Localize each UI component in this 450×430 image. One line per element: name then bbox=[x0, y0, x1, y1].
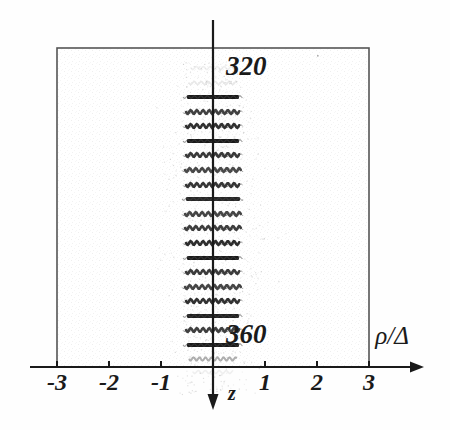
x-axis-tick-label: -2 bbox=[99, 369, 119, 395]
figure-svg: -3-2-1123ρ/Δz320360 bbox=[0, 0, 450, 430]
x-axis-tick-label: 3 bbox=[362, 369, 375, 395]
x-axis-tick-label: -1 bbox=[151, 369, 171, 395]
scan-speck bbox=[317, 55, 319, 57]
figure-canvas: -3-2-1123ρ/Δz320360 bbox=[0, 0, 450, 430]
annotation-label: 360 bbox=[225, 319, 267, 349]
x-axis-tick-label: 1 bbox=[259, 369, 271, 395]
x-axis-tick-label: 2 bbox=[310, 369, 323, 395]
y-axis-title: z bbox=[227, 382, 236, 404]
x-axis-tick-label: -3 bbox=[47, 369, 67, 395]
annotation-label: 320 bbox=[225, 51, 267, 81]
x-axis-title: ρ/Δ bbox=[374, 322, 409, 349]
